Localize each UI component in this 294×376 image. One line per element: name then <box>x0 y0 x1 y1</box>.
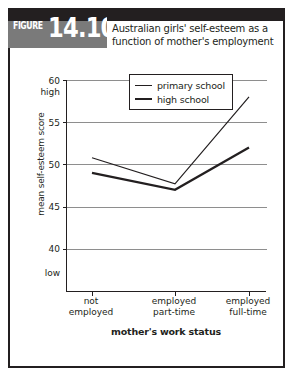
y-axis-high-label: high <box>26 87 60 97</box>
x-axis-title: mother's work status <box>66 326 266 337</box>
legend-line-icon-high <box>135 98 152 100</box>
x-tick-label-part-time: employedpart-time <box>134 296 214 318</box>
chart-legend: primary school high school <box>129 74 233 110</box>
figure-word-label: FIGURE <box>13 20 43 31</box>
legend-label-primary: primary school <box>157 80 225 91</box>
legend-line-icon-primary <box>135 85 152 86</box>
figure-card: FIGURE 14.10 Australian girls' self-este… <box>8 8 285 368</box>
y-tick-label-60: 60 <box>26 76 60 86</box>
chart-area: mean self-esteem score 60 high 55 50 45 … <box>10 54 283 366</box>
line-high-school <box>92 148 249 190</box>
x-tick-label-full-time: employedfull-time <box>208 296 288 318</box>
y-tick-label-50: 50 <box>26 160 60 170</box>
y-tick-label-45: 45 <box>26 202 60 212</box>
y-tick-label-55: 55 <box>26 118 60 128</box>
y-tick-label-40: 40 <box>26 244 60 254</box>
legend-label-high: high school <box>157 94 209 105</box>
plot-frame: primary school high school <box>66 80 266 292</box>
figure-number-badge: FIGURE 14.10 <box>8 8 107 48</box>
legend-item-primary-school: primary school <box>135 78 225 92</box>
y-axis-tick-labels: 60 high 55 50 45 40 low <box>22 54 60 314</box>
x-axis-tick-labels: notemployed employedpart-time employedfu… <box>66 296 266 326</box>
figure-number-label: 14.10 <box>48 14 107 41</box>
legend-item-high-school: high school <box>135 92 225 106</box>
y-axis-low-label: low <box>26 268 60 278</box>
data-lines <box>67 80 267 292</box>
figure-header: FIGURE 14.10 Australian girls' self-este… <box>8 8 285 52</box>
x-tick-label-not-employed: notemployed <box>51 296 131 318</box>
figure-title: Australian girls' self-esteem as a funct… <box>112 22 284 48</box>
header-black-bar <box>107 8 285 21</box>
